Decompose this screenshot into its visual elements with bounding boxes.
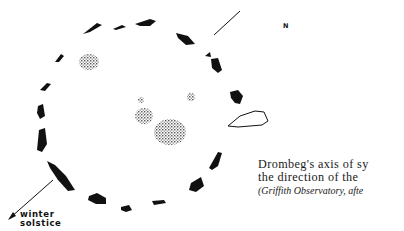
stone bbox=[189, 177, 204, 192]
stone bbox=[230, 90, 243, 104]
stone bbox=[37, 128, 47, 152]
stippled-area bbox=[187, 93, 195, 101]
stippled-area bbox=[154, 119, 186, 145]
stone bbox=[152, 200, 166, 205]
stone bbox=[47, 161, 75, 191]
stone bbox=[211, 58, 222, 73]
label-line: solstice bbox=[20, 219, 61, 228]
stone bbox=[55, 54, 64, 62]
north-label: N bbox=[283, 22, 288, 30]
stippled-area bbox=[138, 97, 144, 103]
axis-line-ne bbox=[214, 11, 240, 35]
stone bbox=[113, 25, 126, 30]
stone bbox=[209, 152, 222, 170]
stone bbox=[121, 205, 132, 212]
figure-caption: Drombeg's axis of sy the direction of th… bbox=[258, 158, 404, 197]
stone bbox=[205, 52, 211, 57]
stone-circle-diagram bbox=[0, 0, 280, 231]
stone bbox=[176, 33, 195, 45]
outlined-stone bbox=[228, 111, 268, 127]
stone bbox=[135, 19, 156, 26]
stone bbox=[40, 83, 51, 91]
caption-line: the direction of the bbox=[258, 171, 404, 184]
winter-solstice-label: winter solstice bbox=[20, 210, 61, 228]
stone bbox=[37, 104, 45, 119]
stippled-area bbox=[135, 108, 153, 124]
stone bbox=[83, 23, 102, 34]
caption-credit: (Griffith Observatory, afte bbox=[258, 184, 404, 197]
stone bbox=[88, 193, 106, 204]
stippled-area bbox=[79, 54, 99, 70]
